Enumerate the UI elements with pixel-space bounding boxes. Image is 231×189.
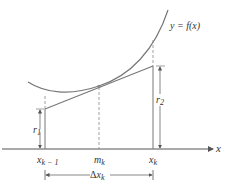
tick-label-x-k-minus-1: xk − 1 xyxy=(36,154,58,167)
x-axis-label: x xyxy=(215,142,221,154)
r2-label: r2 xyxy=(156,94,164,107)
tick-label-x-k: xk xyxy=(148,154,157,167)
delta-x-label: Δxk xyxy=(90,169,105,182)
tangent-trapezoid-diagram: x y = f(x) r1 r2 xk − 1 mk xk Δxk xyxy=(0,0,231,189)
tick-label-m-k: mk xyxy=(94,154,105,167)
function-curve xyxy=(28,10,168,92)
curve-label: y = f(x) xyxy=(169,20,201,32)
